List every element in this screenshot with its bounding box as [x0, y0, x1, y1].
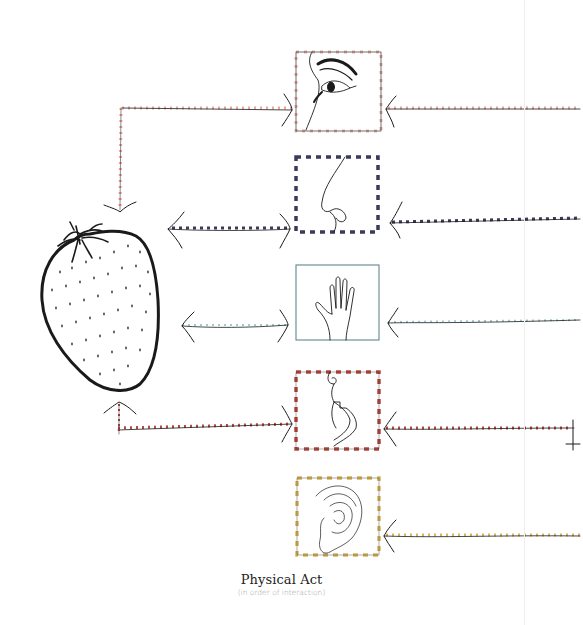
- sense-hearing: [297, 478, 580, 555]
- sense-touch: [182, 265, 580, 342]
- sense-sight: [104, 52, 580, 212]
- sense-taste: [104, 372, 580, 450]
- hand-box: [296, 265, 379, 340]
- sense-diagram: [0, 0, 583, 625]
- caption-subtitle: (in order of interaction): [0, 588, 583, 597]
- eye-icon: [306, 52, 356, 130]
- hand-icon: [316, 277, 354, 340]
- sense-smell: [168, 157, 580, 248]
- strawberry-seeds: [51, 245, 151, 386]
- strawberry-leaves: [58, 222, 108, 262]
- nose-box: [296, 157, 378, 232]
- diagram-canvas: Physical Act (in order of interaction): [0, 0, 583, 625]
- nose-icon: [322, 157, 346, 232]
- strawberry-icon: [42, 222, 159, 390]
- ear-icon: [316, 486, 362, 553]
- ear-box: [297, 478, 379, 555]
- page-divider: [524, 0, 525, 625]
- caption-title: Physical Act: [0, 572, 583, 587]
- mouth-icon: [328, 372, 356, 446]
- caption: Physical Act (in order of interaction): [0, 572, 583, 597]
